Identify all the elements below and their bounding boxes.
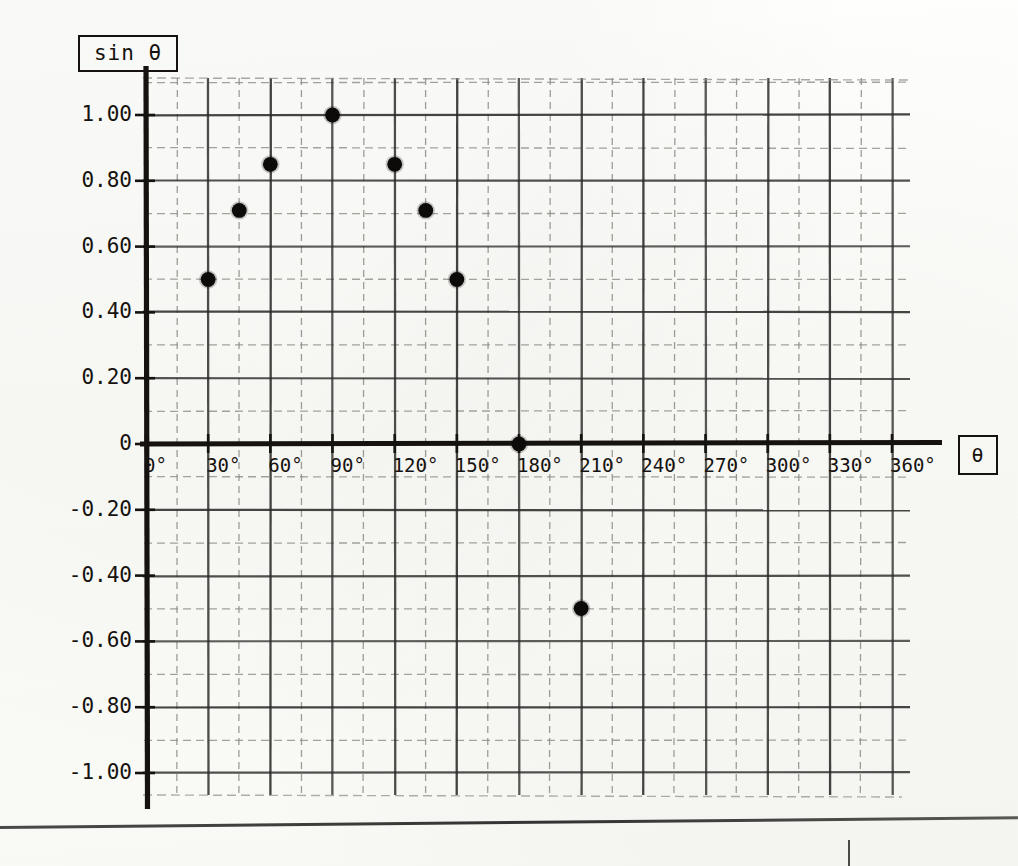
x-axis-line: [140, 443, 942, 445]
data-point: [261, 155, 279, 173]
x-tick-label: 60°: [268, 454, 302, 476]
grid-line-minor-vertical: [550, 78, 551, 795]
x-tick-label: 360°: [890, 454, 936, 476]
x-tick-label: 210°: [579, 454, 625, 476]
grid-line-minor-vertical: [363, 78, 364, 795]
grid-border-bottom: [143, 795, 902, 797]
page-bottom-mark: [848, 840, 850, 866]
sine-scatter-plot: [0, 0, 1018, 866]
y-tick-label: 0.60: [81, 234, 132, 258]
y-tick-label: -0.80: [69, 694, 132, 718]
x-tick-label: 240°: [641, 454, 687, 476]
data-point: [199, 270, 217, 288]
x-axis-label-text: θ: [971, 445, 984, 465]
grid-line-minor-vertical: [488, 78, 489, 795]
grid-line-minor-vertical: [674, 78, 675, 795]
x-axis-label-box: θ: [958, 435, 998, 475]
y-tick-label: -0.40: [69, 563, 132, 587]
data-point: [510, 435, 528, 453]
grid-line-minor-vertical: [860, 78, 861, 795]
y-tick-label: -0.60: [69, 628, 132, 652]
y-tick-label: 1.00: [81, 102, 132, 126]
data-point: [572, 599, 590, 617]
x-tick-label: 180°: [517, 454, 563, 476]
x-tick-label: 330°: [828, 454, 874, 476]
y-tick-label: 0: [119, 431, 132, 455]
y-tick-label: 0.20: [81, 365, 132, 389]
x-tick-label: 0°: [144, 454, 167, 476]
y-tick-label: 0.80: [81, 168, 132, 192]
grid-border-top: [143, 78, 910, 80]
data-point: [230, 201, 248, 219]
y-axis-label-box: sin θ: [78, 35, 178, 72]
x-tick-label: 120°: [393, 454, 439, 476]
data-point: [385, 155, 403, 173]
y-tick-label: -1.00: [69, 760, 132, 784]
x-tick-label: 150°: [455, 454, 501, 476]
grid-line-major-horizontal: [143, 576, 910, 577]
grid-line-minor-horizontal: [144, 411, 910, 412]
grid-line-minor-horizontal: [144, 542, 910, 543]
x-tick-label: 90°: [331, 454, 365, 476]
x-tick-label: 30°: [206, 454, 240, 476]
y-tick-label: -0.20: [69, 497, 132, 521]
grid-line-major-horizontal: [143, 510, 910, 511]
data-point: [323, 106, 341, 124]
x-tick-label: 300°: [766, 454, 812, 476]
grid-line-major-horizontal: [143, 114, 910, 115]
grid-line-minor-horizontal: [144, 148, 910, 149]
data-point: [417, 201, 435, 219]
data-point: [448, 270, 466, 288]
grid-line-major-horizontal: [143, 378, 910, 379]
grid-line-minor-vertical: [177, 78, 178, 795]
y-tick-label: 0.40: [81, 299, 132, 323]
x-tick-label: 270°: [704, 454, 750, 476]
y-axis-label-text: sin θ: [94, 43, 162, 64]
